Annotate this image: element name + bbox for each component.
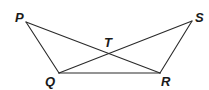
point-label-s: S xyxy=(195,10,204,25)
point-label-q: Q xyxy=(45,74,55,89)
segment-pq xyxy=(26,22,59,73)
geometry-diagram: P S Q R T xyxy=(0,0,209,90)
point-label-r: R xyxy=(161,74,171,89)
point-label-p: P xyxy=(15,10,24,25)
segment-sq xyxy=(59,21,192,73)
point-label-t: T xyxy=(104,35,113,50)
diagram-canvas: P S Q R T xyxy=(0,0,209,90)
segment-sr xyxy=(160,21,192,73)
segment-pr xyxy=(26,22,160,73)
